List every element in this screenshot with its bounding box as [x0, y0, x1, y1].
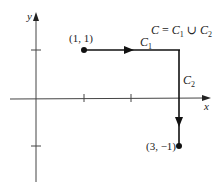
c1-label: C1 [140, 35, 152, 51]
c2-direction-arrow-icon [175, 117, 183, 127]
y-axis-label: y [26, 10, 32, 22]
end-point [176, 143, 182, 149]
union-label: C = C1 ∪ C2 [151, 23, 212, 39]
c2-label: C2 [183, 73, 195, 89]
end-point-label: (3, −1) [146, 140, 176, 153]
y-axis-arrow-icon [33, 12, 39, 21]
start-point-label: (1, 1) [69, 32, 93, 45]
x-axis [10, 98, 204, 99]
diagram-canvas: y x (1, 1) (3, −1) C1 C2 C = C1 ∪ C2 [0, 0, 220, 187]
start-point [81, 47, 87, 53]
c1-direction-arrow-icon [124, 46, 134, 54]
x-axis-label: x [203, 100, 209, 112]
